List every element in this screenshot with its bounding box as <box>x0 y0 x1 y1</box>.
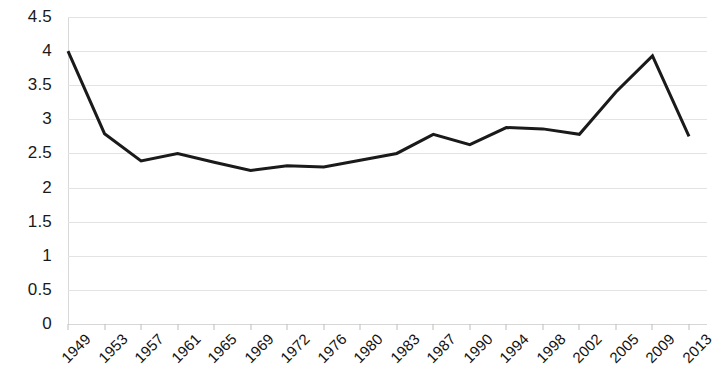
data-series-line <box>68 17 707 324</box>
x-axis-tick-label: 2005 <box>606 330 642 366</box>
x-axis-tick-label: 1976 <box>314 330 350 366</box>
x-axis-tick-labels: 1949195319571961196519691972197619801983… <box>68 330 707 385</box>
x-axis-tick-label: 1998 <box>533 330 569 366</box>
y-axis-tick-label: 1 <box>42 246 52 266</box>
x-axis-tick-label: 1965 <box>204 330 240 366</box>
x-axis-tick-label: 1980 <box>350 330 386 366</box>
y-axis-tick-label: 1.5 <box>28 212 52 232</box>
y-axis-tick-label: 2 <box>42 178 52 198</box>
y-axis-tick-label: 0 <box>42 314 52 334</box>
x-axis-tick-label: 1953 <box>94 330 130 366</box>
x-axis-tick-label: 1957 <box>131 330 167 366</box>
x-axis-tick-label: 1972 <box>277 330 313 366</box>
x-axis-tick-label: 1969 <box>240 330 276 366</box>
x-axis-tick-label: 1983 <box>387 330 423 366</box>
x-axis-tick-label: 1987 <box>423 330 459 366</box>
y-axis-tick-labels: 00.511.522.533.544.5 <box>0 0 62 385</box>
y-axis-tick-label: 4 <box>42 41 52 61</box>
plot-area <box>68 17 707 324</box>
y-axis-tick-label: 4.5 <box>28 7 52 27</box>
y-axis-tick-label: 3 <box>42 109 52 129</box>
x-axis-tick-label: 2013 <box>679 330 715 366</box>
y-axis-tick-label: 0.5 <box>28 280 52 300</box>
x-axis-tick-label: 2002 <box>569 330 605 366</box>
x-axis-tick-label: 2009 <box>642 330 678 366</box>
x-axis-tick-label: 1994 <box>496 330 532 366</box>
x-axis-tick-label: 1949 <box>58 330 94 366</box>
y-axis-tick-label: 2.5 <box>28 143 52 163</box>
x-axis-tick-label: 1990 <box>460 330 496 366</box>
x-axis-tick-label: 1961 <box>167 330 203 366</box>
y-axis-tick-label: 3.5 <box>28 75 52 95</box>
